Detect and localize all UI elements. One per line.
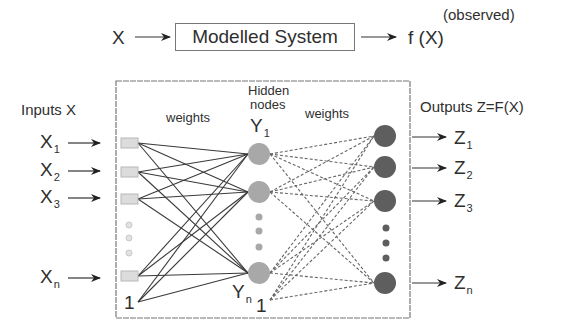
- input-label-n: Xn: [40, 267, 60, 286]
- input-arrows: [68, 143, 100, 278]
- hidden-title-line2: nodes: [250, 98, 285, 111]
- weights-left-label: weights: [166, 111, 210, 124]
- outputs-title: Outputs Z=F(X): [420, 99, 524, 114]
- output-label-n: Zn: [454, 273, 473, 292]
- observed-label: (observed): [443, 7, 515, 22]
- hidden-bias-label: 1: [256, 296, 267, 315]
- output-arrows: [412, 137, 446, 283]
- output-ellipsis: [383, 225, 390, 262]
- input-ellipsis: [126, 222, 132, 256]
- hidden-ellipsis: [256, 214, 263, 251]
- modelled-system-label: Modelled System: [192, 26, 338, 48]
- output-label-1: Z1: [454, 128, 473, 147]
- system-input-label: X: [112, 28, 125, 47]
- input-label-1: X1: [40, 132, 60, 151]
- hidden-label-last: Yn: [232, 282, 252, 301]
- input-hidden-weights: [138, 143, 248, 302]
- neural-network-diagram: X Modelled System f (X) (observed) Input…: [0, 0, 573, 333]
- input-nodes: [121, 138, 138, 281]
- modelled-system-box: Modelled System: [175, 23, 355, 51]
- input-label-2: X2: [40, 160, 60, 179]
- hidden-title-line1: Hidden: [248, 84, 289, 97]
- weights-right-label: weights: [305, 107, 349, 120]
- system-output-label: f (X): [408, 28, 444, 47]
- inputs-title: Inputs X: [21, 102, 76, 117]
- output-label-2: Z2: [454, 158, 473, 177]
- hidden-output-weights: [270, 136, 374, 300]
- output-label-3: Z3: [454, 191, 473, 210]
- input-bias-label: 1: [124, 293, 135, 312]
- output-nodes: [374, 125, 396, 294]
- input-label-3: X3: [40, 187, 60, 206]
- hidden-label-first: Y1: [250, 116, 270, 135]
